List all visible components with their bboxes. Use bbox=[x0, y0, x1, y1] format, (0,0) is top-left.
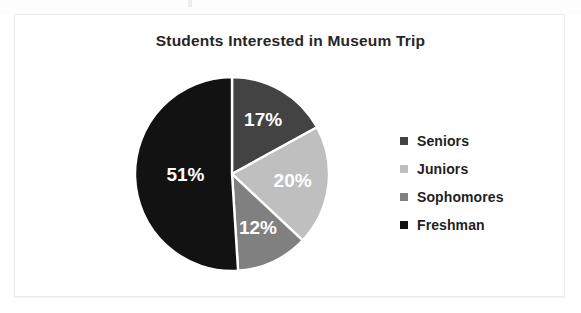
legend-item-freshman[interactable]: Freshman bbox=[400, 211, 550, 239]
square-marker-icon bbox=[400, 193, 408, 201]
scan-edge bbox=[0, 0, 581, 14]
pie-label-seniors: 17% bbox=[244, 109, 282, 130]
pie-label-juniors: 20% bbox=[274, 170, 312, 191]
legend-label-freshman: Freshman bbox=[417, 217, 485, 233]
legend-label-juniors: Juniors bbox=[417, 161, 468, 177]
legend-item-seniors[interactable]: Seniors bbox=[400, 127, 550, 155]
chart-screenshot: Students Interested in Museum Trip 17%20… bbox=[0, 0, 581, 313]
square-marker-icon bbox=[400, 137, 408, 145]
square-marker-icon bbox=[400, 165, 408, 173]
pie-label-freshman: 51% bbox=[166, 164, 204, 185]
pie-label-sophomores: 12% bbox=[239, 217, 277, 238]
legend-label-seniors: Seniors bbox=[417, 133, 469, 149]
legend-label-sophomores: Sophomores bbox=[417, 189, 504, 205]
legend-item-juniors[interactable]: Juniors bbox=[400, 155, 550, 183]
chart-frame: Students Interested in Museum Trip 17%20… bbox=[14, 14, 565, 297]
chart-legend: Seniors Juniors Sophomores Freshman bbox=[400, 127, 550, 239]
square-marker-icon bbox=[400, 221, 408, 229]
chart-title: Students Interested in Museum Trip bbox=[15, 32, 566, 50]
scan-artifact-mark bbox=[188, 0, 192, 7]
legend-item-sophomores[interactable]: Sophomores bbox=[400, 183, 550, 211]
pie-chart-svg: 17%20%12%51% bbox=[134, 76, 330, 272]
pie-chart: 17%20%12%51% bbox=[134, 76, 330, 272]
